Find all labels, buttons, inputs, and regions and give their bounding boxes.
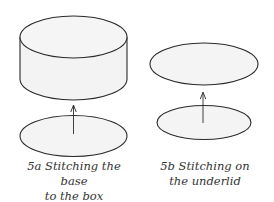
caption-5b: 5b Stitching on the underlid	[150, 159, 260, 189]
caption-5a-line1: 5a Stitching the base	[20, 159, 128, 189]
underlid-ellipse	[157, 106, 251, 140]
caption-5b-line2: the underlid	[150, 174, 260, 189]
caption-5a: 5a Stitching the base to the box	[20, 159, 128, 202]
caption-5a-line2: to the box	[20, 189, 128, 202]
cylinder-box	[20, 16, 127, 100]
caption-5b-line1: 5b Stitching on	[150, 159, 260, 174]
lid-ellipse	[150, 43, 258, 85]
